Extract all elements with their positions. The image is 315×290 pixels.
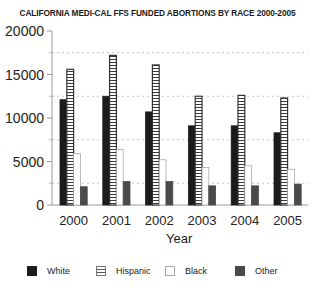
bar-chart-plot: 05000100001500020000 2000200120022003200… (0, 0, 315, 230)
x-tick-label: 2003 (188, 213, 217, 228)
black-swatch-icon (165, 266, 175, 276)
bar-hispanic-2004 (238, 95, 245, 205)
bar-white-2005 (274, 133, 281, 205)
y-tick-label: 5000 (13, 154, 44, 170)
y-tick-label: 10000 (5, 110, 44, 126)
legend-label: Black (185, 266, 207, 276)
legend-label: Other (255, 266, 278, 276)
bar-white-2001 (103, 96, 110, 205)
other-swatch-icon (235, 266, 245, 276)
legend-item-white: White (27, 264, 70, 278)
bar-other-2002 (166, 182, 173, 205)
bar-black-2005 (288, 169, 295, 205)
bar-black-2004 (245, 166, 252, 205)
bar-white-2003 (188, 126, 195, 205)
bar-hispanic-2000 (67, 69, 74, 205)
legend: White Hispanic Black Other (0, 264, 315, 280)
x-axis-labels: 200020012002200320042005 (59, 213, 302, 228)
bar-black-2001 (116, 149, 123, 205)
x-tick-label: 2004 (230, 213, 259, 228)
bar-other-2000 (80, 187, 87, 205)
x-tick-label: 2000 (59, 213, 88, 228)
y-tick-label: 0 (36, 197, 44, 213)
x-tick-label: 2005 (273, 213, 302, 228)
bars (60, 55, 301, 205)
bar-black-2003 (202, 168, 209, 205)
legend-item-hispanic: Hispanic (96, 264, 151, 278)
legend-label: White (47, 266, 70, 276)
bar-hispanic-2001 (110, 55, 117, 205)
bar-white-2000 (60, 100, 67, 205)
bar-hispanic-2005 (281, 98, 288, 205)
y-tick-label: 20000 (5, 23, 44, 39)
bar-white-2004 (231, 126, 238, 205)
bar-black-2000 (74, 154, 81, 205)
y-tick-label: 15000 (5, 67, 44, 83)
legend-item-other: Other (235, 264, 278, 278)
legend-item-black: Black (165, 264, 207, 278)
bar-hispanic-2003 (195, 96, 202, 205)
hispanic-swatch-icon (96, 266, 106, 276)
bar-other-2004 (252, 186, 259, 205)
bar-white-2002 (146, 112, 153, 205)
bar-black-2002 (159, 160, 166, 205)
gridlines (52, 53, 308, 184)
bar-other-2003 (209, 186, 216, 205)
bar-other-2005 (294, 184, 301, 205)
legend-label: Hispanic (116, 266, 151, 276)
bar-hispanic-2002 (152, 65, 159, 205)
x-tick-label: 2001 (102, 213, 131, 228)
x-tick-label: 2002 (145, 213, 174, 228)
bar-other-2001 (123, 182, 130, 205)
white-swatch-icon (27, 266, 37, 276)
